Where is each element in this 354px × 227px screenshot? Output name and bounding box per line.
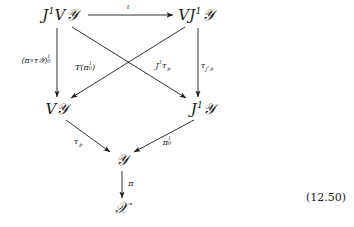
arrow-label-tau-j1y-sub-y: 𝒴	[209, 66, 213, 72]
node-y: 𝒴	[116, 153, 128, 168]
arrow-label-t-pi-open: T(π	[75, 63, 89, 72]
arrow-label-pi-tau-open: (π∘τ	[21, 56, 38, 65]
node-x-script: 𝒳	[115, 199, 128, 217]
arrow-tau-y	[66, 120, 110, 152]
node-x: 𝒳	[115, 201, 128, 216]
node-vertical-jet-y-v: V	[178, 6, 189, 24]
arrow-label-pi: π	[128, 180, 133, 188]
node-y-script: 𝒴	[116, 151, 128, 169]
arrow-label-pi-tau-sub: 0	[47, 59, 50, 64]
arrow-label-pi-text: π	[128, 179, 133, 188]
arrow-label-pi-1-0-supsub: 10	[168, 136, 171, 145]
node-jet-y: J1𝒴	[191, 102, 216, 117]
node-vertical-y: V𝒴	[45, 102, 68, 117]
arrow-label-tau-j1y-sub: J1𝒴	[205, 66, 213, 72]
commutative-diagram-figure: J1V𝒴 VJ1𝒴 V𝒴 J1𝒴 𝒴 𝒳 ι (π∘τ𝒴)10 T(π10) J…	[0, 0, 354, 227]
node-vertical-y-script: 𝒴	[56, 100, 68, 118]
arrow-label-j1-tau: J1τ𝒴	[156, 62, 171, 70]
arrow-label-t-pi-sub: 0	[89, 66, 92, 71]
arrow-label-iota: ι	[127, 4, 130, 11]
node-vertical-jet-y-script: 𝒴	[202, 6, 214, 24]
arrow-label-t-pi-close: )	[92, 63, 95, 72]
node-jet-vertical-y-v: V	[55, 6, 66, 24]
node-vertical-jet-y: VJ1𝒴	[178, 8, 214, 23]
arrow-label-pi-tau: (π∘τ𝒴)10	[21, 55, 50, 66]
arrow-label-pi-1-0-sub: 0	[168, 141, 171, 146]
node-jet-vertical-y-script: 𝒴	[66, 6, 78, 24]
arrow-label-tau-j1y: τJ1𝒴	[201, 62, 213, 70]
arrow-label-tau-y: τ𝒴	[74, 138, 82, 146]
arrow-label-iota-text: ι	[127, 3, 130, 11]
arrow-label-t-pi: T(π10)	[75, 62, 95, 73]
arrow-label-tau-y-sub: 𝒴	[78, 142, 82, 148]
arrow-label-pi-tau-supsub: 10	[47, 54, 50, 63]
arrow-label-j1-tau-sub-y: 𝒴	[166, 66, 170, 72]
node-vertical-y-v: V	[45, 100, 56, 118]
node-jet-vertical-y: J1V𝒴	[42, 8, 78, 23]
arrow-label-pi-1-0: π10	[163, 137, 171, 148]
arrow-label-t-pi-supsub: 10	[89, 61, 92, 70]
equation-number: (12.50)	[306, 191, 346, 204]
node-jet-y-script: 𝒴	[203, 100, 215, 118]
